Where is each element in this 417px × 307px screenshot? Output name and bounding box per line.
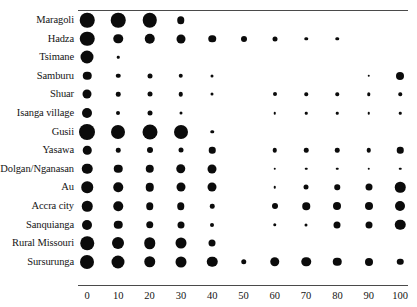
- x-tick-label: 80: [332, 290, 343, 302]
- x-tick-label: 60: [270, 290, 281, 302]
- x-tick-label: 10: [113, 290, 124, 302]
- x-tick-label: 50: [238, 290, 249, 302]
- x-tick-label: 0: [84, 290, 89, 302]
- x-axis-tick-labels: 0102030405060708090100: [0, 0, 417, 307]
- bubble-chart: MaragoliHadzaTsimaneSamburuShuarIsanga v…: [0, 0, 417, 307]
- x-tick-label: 70: [301, 290, 312, 302]
- x-tick-label: 100: [392, 290, 408, 302]
- x-tick-label: 20: [144, 290, 155, 302]
- x-tick-label: 30: [176, 290, 187, 302]
- x-tick-label: 90: [363, 290, 374, 302]
- x-tick-label: 40: [207, 290, 218, 302]
